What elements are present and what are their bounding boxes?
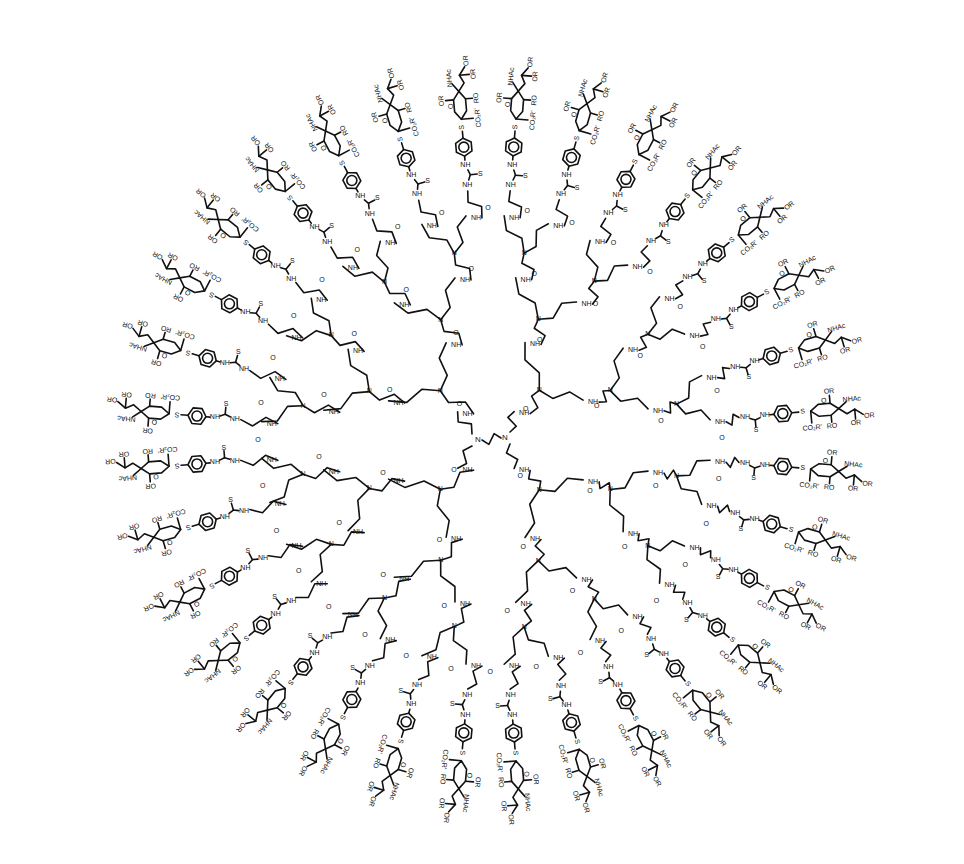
bond <box>508 412 516 432</box>
thiourea-nh: NH <box>760 411 770 418</box>
ring-oxygen: O <box>264 182 273 191</box>
or-label: OR <box>386 67 396 79</box>
bond <box>558 658 566 680</box>
thiourea-sulfur: S <box>236 348 241 355</box>
ester-label: CO₂R' <box>756 598 777 613</box>
nhac-label: NHAc <box>372 83 384 103</box>
sialoside: SOCO₂R'ORRONHAcOROR <box>755 239 840 311</box>
or-label: OR <box>142 427 153 435</box>
bond <box>422 627 454 656</box>
thiocarbonyl-bond <box>649 649 654 653</box>
aromatic-ring <box>192 411 202 421</box>
thiourea-nh: NH <box>220 359 230 366</box>
carbonyl-oxygen: O <box>260 482 266 489</box>
or-label: OR <box>172 293 185 304</box>
bond <box>440 470 473 489</box>
thiourea-nh: NH <box>749 357 759 364</box>
thiourea-sulfur: S <box>751 474 756 481</box>
carbonyl-oxygen: O <box>395 223 401 230</box>
bond <box>810 403 839 417</box>
bond <box>277 708 283 713</box>
bond <box>335 745 342 749</box>
bond <box>661 116 670 121</box>
ester-label: CO₂R' <box>696 190 714 210</box>
or-label: OR <box>161 548 173 558</box>
ester-label: CO₂R' <box>345 138 360 159</box>
carbonyl-oxygen: O <box>387 386 393 393</box>
or-label: OR <box>777 257 790 268</box>
bond <box>591 765 599 767</box>
bond <box>454 216 466 253</box>
or-label: OR <box>572 790 582 802</box>
amide-nh: NH <box>689 332 699 339</box>
dendron: ONHNONHNONHNONHNHSNHSOCO₂R'ORRONHAcORORO… <box>104 436 484 825</box>
thiourea-nh: NH <box>506 181 516 188</box>
thiourea-sulfur: S <box>221 444 226 451</box>
nhac-label: NHAc <box>704 142 721 161</box>
or-label: OR <box>851 335 863 345</box>
bond <box>574 731 576 738</box>
amide-nh: NH <box>275 375 285 382</box>
bond <box>823 540 848 555</box>
bond <box>181 415 188 416</box>
bond <box>807 614 812 623</box>
thiocarbonyl-bond <box>617 206 623 209</box>
amide-nh: NH <box>588 478 598 485</box>
bond <box>240 228 248 237</box>
bond <box>462 742 463 749</box>
ester-label: CO₂R' <box>802 423 822 432</box>
aromatic-ring <box>257 620 267 630</box>
thiourea-sulfur: S <box>272 593 277 600</box>
aromatic-ring <box>401 717 411 727</box>
thioether-sulfur: S <box>787 345 794 353</box>
amide-nh: NH <box>509 214 519 221</box>
thiourea-nh: NH <box>239 507 249 514</box>
thioether-sulfur: S <box>459 750 466 756</box>
bond <box>774 209 780 217</box>
thiocarbonyl-bond <box>369 200 375 203</box>
thiocarbonyl-bond <box>277 599 281 604</box>
nhac-label: NHAc <box>388 782 400 802</box>
ester-label: CO₂R' <box>772 295 793 310</box>
amide-nh: NH <box>399 301 409 308</box>
bond <box>276 681 285 689</box>
ro-label: RO <box>159 324 172 334</box>
bond <box>610 489 624 531</box>
thiourea-nh: NH <box>561 701 571 708</box>
bond <box>449 760 461 761</box>
sialoside: SOCO₂R'ORRONHAcOROR <box>434 55 482 132</box>
bond <box>453 760 467 789</box>
amide-nh: NH <box>460 276 470 283</box>
bond <box>398 770 406 772</box>
bond <box>253 246 270 264</box>
thioether-sulfur: S <box>572 135 580 142</box>
or-label: OR <box>815 622 828 633</box>
bond <box>253 616 270 634</box>
carbonyl-oxygen: O <box>611 239 617 246</box>
bond <box>504 761 516 762</box>
bond <box>377 241 388 282</box>
sialoside: SOCO₂R'ORRONHAcOROR <box>177 182 261 261</box>
bond <box>328 719 339 725</box>
aromatic-ring <box>459 728 469 738</box>
ro-label: RO <box>824 483 836 491</box>
bond <box>117 402 142 412</box>
thiourea-nh: NH <box>460 161 470 168</box>
ester-label: CO₂R' <box>175 329 196 341</box>
ester-label: CO₂R' <box>671 691 689 711</box>
or-label: OR <box>823 387 834 395</box>
carbonyl-oxygen: O <box>714 387 720 394</box>
ester-label: CO₂R' <box>166 508 187 520</box>
bond <box>719 565 728 570</box>
nhac-label: NHAc <box>161 609 181 624</box>
sialoside: SOCO₂R'ORRONHAcOROR <box>228 130 307 213</box>
bond <box>837 547 840 557</box>
or-label: OR <box>107 396 118 404</box>
aromatic-ring <box>298 662 308 672</box>
amide-nh: NH <box>581 576 591 583</box>
or-label: OR <box>817 515 829 525</box>
carbonyl-oxygen: O <box>439 209 445 216</box>
sialoside: SOCO₂R'ORRONHAcOROR <box>138 244 223 315</box>
thiourea-nh: NH <box>406 171 416 178</box>
sialoside: SOCO₂R'ORRONHAcOROR <box>614 88 685 173</box>
